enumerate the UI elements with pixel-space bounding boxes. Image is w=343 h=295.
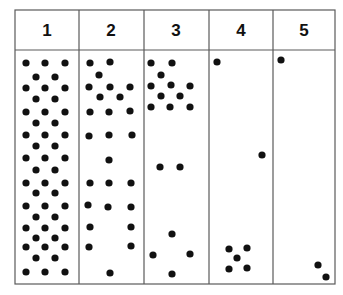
dot xyxy=(51,166,58,173)
dot xyxy=(84,201,91,208)
dot xyxy=(51,234,58,241)
dot xyxy=(106,269,113,276)
dot xyxy=(147,59,154,66)
dot xyxy=(32,254,39,261)
dot xyxy=(104,203,111,210)
dot xyxy=(51,189,58,196)
dot xyxy=(32,119,39,126)
dot xyxy=(86,179,93,186)
dot xyxy=(61,59,68,66)
dot xyxy=(225,265,232,272)
dot xyxy=(41,108,48,115)
column-header-3: 3 xyxy=(171,21,180,40)
dot xyxy=(41,131,48,138)
column-header-4: 4 xyxy=(236,21,246,40)
dot xyxy=(61,154,68,161)
dot xyxy=(127,242,134,249)
dot xyxy=(86,223,93,230)
dot xyxy=(126,107,133,114)
dot xyxy=(22,179,29,186)
dot xyxy=(176,163,183,170)
dot xyxy=(41,59,48,66)
column-header-2: 2 xyxy=(106,21,115,40)
dot xyxy=(176,92,183,99)
dot xyxy=(96,93,103,100)
dot xyxy=(22,268,29,275)
dot xyxy=(166,103,173,110)
column-2-dots xyxy=(84,58,135,276)
dot xyxy=(51,142,58,149)
dot xyxy=(243,264,250,271)
dot xyxy=(22,131,29,138)
dot xyxy=(85,243,92,250)
dot xyxy=(41,154,48,161)
dot xyxy=(32,189,39,196)
dot xyxy=(41,224,48,231)
dot xyxy=(61,243,68,250)
dot xyxy=(22,202,29,209)
dot xyxy=(32,234,39,241)
dot xyxy=(61,268,68,275)
dot xyxy=(147,103,154,110)
dot xyxy=(22,59,29,66)
dot xyxy=(105,179,112,186)
dot xyxy=(85,132,92,139)
dot xyxy=(95,71,102,78)
dot xyxy=(156,163,163,170)
dot xyxy=(105,156,112,163)
dot xyxy=(22,243,29,250)
dot xyxy=(277,56,284,63)
column-headers: 12345 xyxy=(42,21,308,40)
dot xyxy=(168,230,175,237)
dot xyxy=(186,103,193,110)
dot xyxy=(41,243,48,250)
dot xyxy=(106,58,113,65)
dot xyxy=(61,179,68,186)
dot xyxy=(41,202,48,209)
dot xyxy=(243,244,250,251)
dot xyxy=(32,213,39,220)
dot xyxy=(41,268,48,275)
column-3-dots xyxy=(147,59,193,277)
dot-table: 12345 xyxy=(0,0,343,295)
dot xyxy=(61,202,68,209)
column-header-1: 1 xyxy=(42,21,51,40)
dot-columns xyxy=(22,56,329,280)
dot xyxy=(127,203,134,210)
dot xyxy=(167,81,174,88)
dot xyxy=(168,59,175,66)
dot xyxy=(149,251,156,258)
dot xyxy=(116,93,123,100)
column-dividers xyxy=(79,10,273,284)
dot xyxy=(105,131,112,138)
dot xyxy=(86,59,93,66)
column-header-5: 5 xyxy=(299,21,308,40)
dot xyxy=(258,151,265,158)
dot xyxy=(126,83,133,90)
dot xyxy=(51,73,58,80)
dot xyxy=(186,82,193,89)
dot xyxy=(127,223,134,230)
dot xyxy=(32,95,39,102)
dot xyxy=(22,154,29,161)
dot xyxy=(128,131,135,138)
column-1-dots xyxy=(22,59,68,275)
dot xyxy=(61,131,68,138)
dot xyxy=(51,95,58,102)
dot xyxy=(51,254,58,261)
column-4-dots xyxy=(213,58,265,272)
dot xyxy=(233,254,240,261)
column-5-dots xyxy=(277,56,329,280)
dot xyxy=(168,270,175,277)
dot xyxy=(157,92,164,99)
dot xyxy=(41,179,48,186)
dot xyxy=(32,73,39,80)
dot xyxy=(213,58,220,65)
dot xyxy=(61,108,68,115)
dot xyxy=(314,261,321,268)
dot xyxy=(32,166,39,173)
table-border xyxy=(15,10,335,284)
dot xyxy=(22,224,29,231)
dot xyxy=(51,213,58,220)
dot xyxy=(85,83,92,90)
